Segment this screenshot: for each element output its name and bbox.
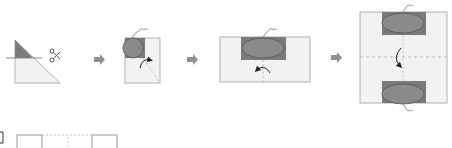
thread-icon bbox=[403, 5, 413, 12]
folding-diagram bbox=[0, 0, 452, 148]
arrow-right-icon bbox=[187, 54, 198, 65]
arrow-right-icon bbox=[94, 54, 105, 65]
step-4-unfolded bbox=[360, 5, 447, 111]
arrow-right-icon bbox=[331, 52, 342, 63]
step-2-square bbox=[123, 29, 160, 84]
thread-icon bbox=[263, 29, 277, 38]
thread-icon bbox=[132, 29, 148, 39]
bottom-options bbox=[0, 132, 117, 148]
scissors-icon bbox=[50, 49, 60, 62]
step-1-triangle bbox=[6, 40, 60, 83]
step-3-rectangle bbox=[220, 29, 310, 83]
thread-icon bbox=[403, 104, 413, 111]
